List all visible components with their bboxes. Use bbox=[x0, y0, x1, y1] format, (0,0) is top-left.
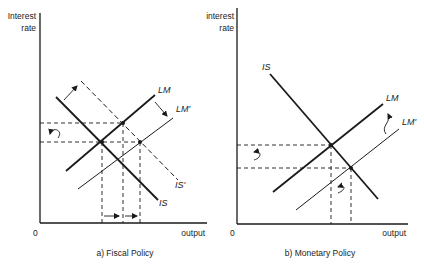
lm-shift-arrow-icon bbox=[155, 102, 167, 116]
lm-prime-curve bbox=[296, 129, 399, 210]
is-prime-label: IS' bbox=[175, 180, 186, 190]
is-curve bbox=[270, 74, 378, 199]
x-axis-label: output bbox=[181, 228, 205, 238]
rate-curved-arrow-icon bbox=[254, 152, 260, 160]
monetary-policy-panel: interest rate 0 output b) Monetary Polic… bbox=[206, 8, 416, 258]
y-axis-label-2: rate bbox=[219, 23, 234, 33]
output-curved-arrow-icon bbox=[338, 186, 344, 193]
is-label: IS bbox=[262, 62, 271, 72]
lm-prime-label: LM' bbox=[402, 117, 417, 127]
lm-prime-curve bbox=[78, 118, 173, 189]
panel-caption: b) Monetary Policy bbox=[285, 248, 356, 258]
y-axis-label: Interest bbox=[8, 11, 37, 21]
is-label: IS bbox=[159, 198, 168, 208]
y-axis-label-2: rate bbox=[21, 23, 36, 33]
equilibrium-point bbox=[349, 166, 353, 170]
curved-arrow-icon bbox=[50, 130, 60, 138]
lm-label: LM bbox=[386, 93, 399, 103]
lm-curve bbox=[273, 104, 383, 192]
fiscal-policy-panel: Interest rate 0 output a) Fiscal Policy bbox=[8, 11, 207, 258]
x-axis-label: output bbox=[382, 228, 406, 238]
equilibrium-point bbox=[329, 143, 333, 147]
lm-curved-arrow-icon bbox=[384, 114, 389, 134]
lm-label: LM bbox=[158, 85, 171, 95]
is-curve bbox=[56, 97, 158, 200]
y-axis-label: interest bbox=[206, 11, 235, 21]
guide-lines bbox=[237, 145, 351, 224]
origin-label: 0 bbox=[33, 228, 38, 238]
equilibrium-point bbox=[121, 121, 125, 125]
islm-diagram: Interest rate 0 output a) Fiscal Policy bbox=[0, 0, 424, 268]
guide-lines bbox=[40, 123, 140, 223]
lm-curve bbox=[66, 95, 155, 171]
panel-caption: a) Fiscal Policy bbox=[96, 248, 154, 258]
is-prime-curve bbox=[81, 81, 178, 180]
is-shift-arrow-icon bbox=[64, 86, 77, 100]
lm-prime-label: LM' bbox=[176, 104, 191, 114]
equilibrium-point bbox=[138, 140, 142, 144]
equilibrium-point bbox=[100, 140, 104, 144]
origin-label: 0 bbox=[230, 228, 235, 238]
